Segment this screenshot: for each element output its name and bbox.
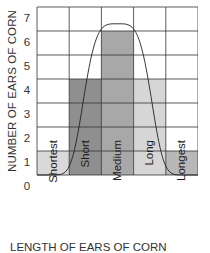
x-tick-longest: Longest <box>175 140 189 220</box>
x-tick-medium: Medium <box>111 140 125 220</box>
x-tick-shortest: Shortest <box>47 140 61 220</box>
x-axis-label: LENGTH OF EARS OF CORN <box>10 241 210 253</box>
x-tick-short: Short <box>79 140 93 220</box>
x-tick-long: Long <box>143 140 157 220</box>
